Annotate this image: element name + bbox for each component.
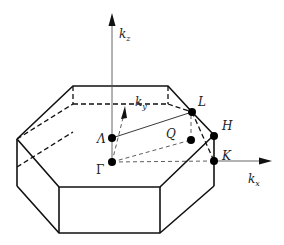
kx-label: kx (248, 172, 260, 188)
gamma-label: Γ (96, 163, 104, 177)
ky-label: ky (135, 95, 147, 111)
point-K (210, 157, 218, 165)
point-Q (187, 136, 195, 144)
point-L (188, 108, 196, 116)
point-gamma (108, 158, 116, 166)
L-label: L (197, 95, 206, 109)
kz-arrow-icon (109, 13, 116, 26)
point-lambda (108, 134, 116, 142)
hidden-edge-top-back-left (17, 104, 73, 139)
gamma-K-line (112, 161, 214, 162)
kz-label: kz (119, 27, 131, 43)
brillouin-zone-diagram: kz ky kx Γ Λ L H K Q (0, 0, 284, 245)
visible-edges (17, 86, 214, 233)
gamma-Q-line (112, 140, 191, 162)
K-label: K (221, 149, 232, 163)
bottom-hexagon-front (17, 186, 214, 233)
ky-arrow-icon (121, 106, 127, 119)
Q-label: Q (166, 127, 176, 141)
H-label: H (221, 119, 233, 133)
kx-arrow-icon (259, 158, 272, 165)
lambda-label: Λ (96, 132, 106, 146)
hidden-edges (17, 86, 214, 167)
point-H (210, 132, 218, 140)
